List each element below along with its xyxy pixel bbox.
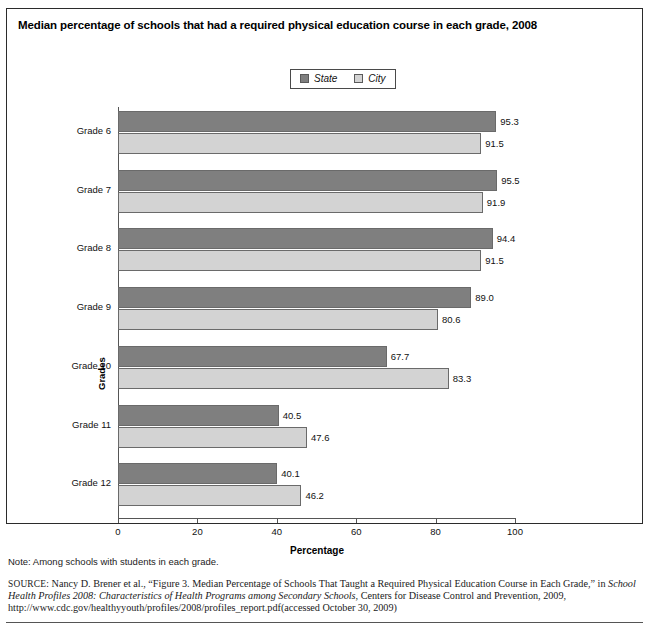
bar-state [118,228,493,249]
y-axis-category-label: Grade 9 [77,301,111,312]
bar-group: 94.491.5 [118,228,515,271]
x-axis-tick-label: 0 [115,526,120,537]
bar-value-label: 46.2 [305,485,324,506]
source-label: SOURCE: [8,579,49,589]
x-axis-tick-label: 100 [507,526,523,537]
x-axis-title: Percentage [118,545,516,556]
x-axis-tick-label: 80 [430,526,441,537]
x-axis-tick [356,518,357,523]
x-axis-tick [197,518,198,523]
bar-group: 95.591.9 [118,170,515,213]
legend-swatch-state-icon [300,74,309,83]
figure-page: Median percentage of schools that had a … [0,0,651,631]
y-axis-category-label: Grade 6 [77,125,111,136]
bar-value-label: 80.6 [442,309,461,330]
bar-value-label: 91.5 [485,133,504,154]
bar-value-label: 95.5 [501,170,520,191]
bar-state [118,170,497,191]
legend-swatch-city-icon [354,74,363,83]
y-axis-category-label: Grade 8 [77,242,111,253]
bar-group: 40.547.6 [118,405,515,448]
bar-value-label: 40.5 [283,405,302,426]
bar-state [118,111,496,132]
bar-city [118,133,481,154]
legend-item-city: City [354,73,385,84]
bar-group: 95.391.5 [118,111,515,154]
x-axis-tick-label: 20 [192,526,203,537]
figure-panel: Median percentage of schools that had a … [6,8,643,524]
x-axis-tick [277,518,278,523]
page-title: Median percentage of schools that had a … [18,18,628,32]
figure-source: SOURCE: Nancy D. Brener et al., “Figure … [8,578,645,615]
chart-legend: State City [290,69,396,89]
bar-city [118,485,301,506]
bar-value-label: 83.3 [453,368,472,389]
bottom-divider [6,622,643,623]
bar-city [118,250,481,271]
plot-area: Grades 02040608010095.391.595.591.994.49… [118,107,515,518]
legend-label-state: State [314,73,337,84]
bar-city [118,368,449,389]
bar-group: 40.146.2 [118,463,515,506]
bar-group: 89.080.6 [118,287,515,330]
y-axis-title: Grades [96,357,107,390]
bar-value-label: 67.7 [391,346,410,367]
category-axis-labels: Grade 6Grade 7Grade 8Grade 9Grade 10Grad… [7,107,111,518]
bar-value-label: 40.1 [281,463,300,484]
bar-value-label: 47.6 [311,427,330,448]
bar-value-label: 94.4 [497,228,516,249]
bar-state [118,287,471,308]
bar-state [118,463,277,484]
bar-value-label: 89.0 [475,287,494,308]
x-axis-line [118,518,516,519]
x-axis-tick [515,518,516,523]
bar-city [118,309,438,330]
bar-group: 67.783.3 [118,346,515,389]
legend-label-city: City [368,73,385,84]
bar-value-label: 91.5 [485,250,504,271]
y-axis-category-label: Grade 7 [77,184,111,195]
bar-value-label: 91.9 [487,192,506,213]
bar-city [118,192,483,213]
x-axis-tick-label: 40 [272,526,283,537]
x-axis-tick [436,518,437,523]
bar-value-label: 95.3 [500,111,519,132]
y-axis-category-label: Grade 12 [71,477,111,488]
bar-city [118,427,307,448]
figure-note: Note: Among schools with students in eac… [8,556,219,568]
y-axis-category-label: Grade 11 [72,419,111,430]
x-axis-tick-label: 60 [351,526,362,537]
bar-state [118,405,279,426]
bar-state [118,346,387,367]
source-text-1: Nancy D. Brener et al., “Figure 3. Media… [49,578,608,589]
legend-item-state: State [300,73,337,84]
x-axis-tick [118,518,119,523]
